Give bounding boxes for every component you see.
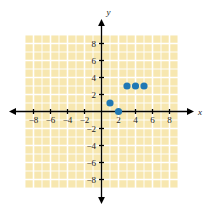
- x-axis-arrow-left-icon: [9, 108, 16, 115]
- data-point: [123, 82, 130, 89]
- coordinate-plane-figure: −8−6−4−22468 −8−6−4−22468 x y: [0, 0, 206, 210]
- y-tick-label: −4: [86, 141, 96, 151]
- y-axis-label: y: [106, 7, 111, 17]
- data-point: [140, 82, 147, 89]
- x-axis-label: x: [197, 107, 202, 117]
- x-tick-label: 4: [133, 115, 138, 125]
- x-axis-arrow-right-icon: [187, 108, 194, 115]
- x-tick-label: 2: [116, 115, 121, 125]
- y-tick-label: −6: [86, 158, 96, 168]
- data-point: [115, 108, 122, 115]
- y-tick-label: 2: [92, 90, 97, 100]
- x-tick-label: −6: [46, 115, 56, 125]
- y-tick-label: −8: [86, 175, 96, 185]
- x-tick-label: 8: [167, 115, 172, 125]
- y-tick-label: 8: [92, 39, 97, 49]
- y-tick-label: 6: [92, 56, 97, 66]
- x-tick-label: −8: [29, 115, 39, 125]
- y-tick-label: 4: [92, 73, 97, 83]
- y-axis-arrow-down-icon: [98, 197, 105, 204]
- y-axis-arrow-up-icon: [98, 19, 105, 26]
- data-point: [132, 82, 139, 89]
- x-tick-label: −4: [63, 115, 73, 125]
- x-tick-label: 6: [150, 115, 155, 125]
- data-point: [106, 99, 113, 106]
- scatter-plot-svg: −8−6−4−22468 −8−6−4−22468 x y: [0, 0, 206, 210]
- y-tick-label: −2: [86, 124, 96, 134]
